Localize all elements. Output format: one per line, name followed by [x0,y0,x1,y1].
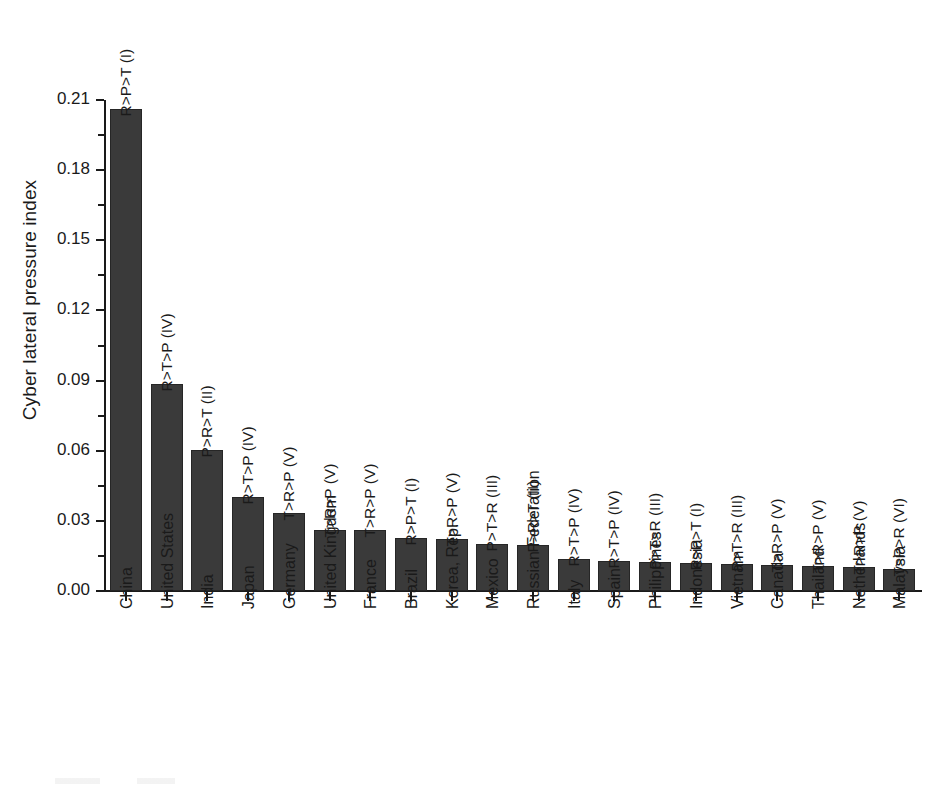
y-axis-tick [96,239,104,241]
bar-annotation: R>T>P (IV) [606,490,622,568]
x-axis-category-label: Korea, Rep. [445,524,461,609]
x-axis-category-label: Germany [282,543,298,609]
bar-annotation: R>T>P (IV) [565,488,581,566]
y-axis-minor-tick [98,485,104,487]
caption-artifact [55,778,205,784]
x-axis-category-label: Italy [567,580,583,609]
bar-annotation: T>R>P (V) [280,447,296,521]
y-axis-tick-labels: 0.000.030.060.090.120.150.180.21 [30,0,90,795]
bar-annotation: R>P>T (I) [402,477,418,545]
y-axis-tick-label: 0.03 [34,510,90,530]
x-axis-category-label: United Kingdom [323,495,339,609]
x-axis-line [104,590,922,592]
y-axis-tick [96,380,104,382]
x-axis-category-label: Japan [241,565,257,609]
bar [191,450,223,591]
x-axis-category-label: Malaysia [892,546,908,609]
x-axis-category-label: Indonesia [689,540,705,609]
y-axis-minor-tick [98,134,104,136]
y-axis-minor-tick [98,345,104,347]
y-axis-tick-label: 0.18 [34,159,90,179]
y-axis-minor-tick [98,555,104,557]
y-axis-minor-tick [98,415,104,417]
bar-annotation: R>T>P (IV) [240,427,256,505]
y-axis-tick-label: 0.06 [34,440,90,460]
y-axis-tick [96,169,104,171]
x-axis-category-label: India [200,574,216,609]
y-axis-tick-label: 0.09 [34,370,90,390]
x-axis-category-label: Netherlands [852,523,868,609]
y-axis-tick-label: 0.21 [34,89,90,109]
y-axis-tick [96,520,104,522]
y-axis-tick-label: 0.00 [34,580,90,600]
x-axis-category-label: Canada [770,553,786,609]
x-axis-category-label: Spain [607,568,623,609]
bar-annotation: T>R>P (V) [362,464,378,538]
bar-annotation: R>T>P (IV) [158,313,174,391]
x-axis-category-label: Russian Federation [526,470,542,609]
chart-figure: Cyber lateral pressure index 0.000.030.0… [0,0,927,795]
bar [110,109,142,591]
y-axis-tick [96,99,104,101]
x-axis-category-label: Philippines [648,532,664,609]
bar-annotation: P>R>T (II) [199,386,215,458]
x-axis-category-label: Vietnam [730,551,746,609]
x-axis-category-label: Mexico [485,558,501,609]
y-axis-tick [96,590,104,592]
y-axis-line [104,100,106,592]
x-axis-category-label: France [363,559,379,609]
y-axis-tick [96,309,104,311]
plot-area: 0.000.030.060.090.120.150.180.21 R>P>T (… [0,0,927,795]
y-axis-minor-tick [98,274,104,276]
bar-annotation: P>T>R (III) [484,475,500,552]
bar-annotation: R>P>T (I) [118,49,134,117]
x-axis-category-label: Brazil [404,569,420,609]
y-axis-tick-label: 0.15 [34,229,90,249]
y-axis-tick-label: 0.12 [34,299,90,319]
x-axis-category-label: Thailand [811,548,827,609]
y-axis-tick [96,450,104,452]
x-axis-category-label: United States [160,513,176,609]
x-axis-category-label: China [119,567,135,609]
y-axis-minor-tick [98,204,104,206]
